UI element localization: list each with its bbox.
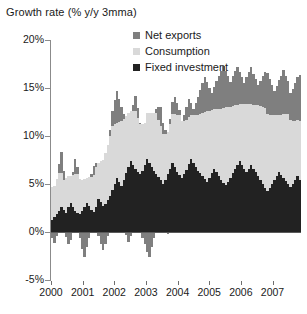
- y-tick-mark: [45, 88, 50, 89]
- x-tick-mark: [209, 281, 210, 285]
- plot-area: [51, 40, 301, 280]
- y-tick-label: 20%: [2, 33, 44, 45]
- y-tick-mark: [45, 40, 50, 41]
- legend-swatch-icon: [133, 32, 140, 39]
- chart-legend: Net exportsConsumptionFixed investment: [133, 28, 228, 76]
- y-tick-label: 5%: [2, 177, 44, 189]
- x-tick-mark: [83, 281, 84, 285]
- x-tick-label: 2003: [129, 286, 163, 298]
- legend-label: Fixed investment: [145, 62, 228, 73]
- legend-label: Consumption: [145, 46, 210, 57]
- y-tick-mark: [45, 136, 50, 137]
- x-tick-mark: [114, 281, 115, 285]
- chart-figure: Growth rate (% y/y 3mma) 20%15%10%5%0%-5…: [0, 0, 307, 314]
- x-tick-label: 2005: [192, 286, 226, 298]
- y-tick-mark: [45, 184, 50, 185]
- x-tick-label: 2000: [34, 286, 68, 298]
- y-tick-label: 0%: [2, 225, 44, 237]
- legend-item[interactable]: Fixed investment: [133, 60, 228, 75]
- y-tick-mark: [45, 232, 50, 233]
- legend-item[interactable]: Net exports: [133, 28, 228, 43]
- y-axis-labels: 20%15%10%5%0%-5%: [0, 0, 44, 314]
- legend-label: Net exports: [145, 30, 201, 41]
- stacked-area-plot: [51, 40, 301, 280]
- x-tick-label: 2004: [161, 286, 195, 298]
- x-tick-mark: [273, 281, 274, 285]
- y-tick-label: 15%: [2, 81, 44, 93]
- x-tick-label: 2007: [256, 286, 290, 298]
- legend-swatch-icon: [133, 48, 140, 55]
- x-tick-mark: [146, 281, 147, 285]
- y-tick-label: -5%: [2, 273, 44, 285]
- x-tick-mark: [178, 281, 179, 285]
- legend-item[interactable]: Consumption: [133, 44, 228, 59]
- y-tick-label: 10%: [2, 129, 44, 141]
- y-tick-mark: [45, 280, 50, 281]
- x-tick-mark: [51, 281, 52, 285]
- x-tick-label: 2006: [224, 286, 258, 298]
- x-tick-mark: [241, 281, 242, 285]
- x-tick-label: 2002: [97, 286, 131, 298]
- legend-swatch-icon: [133, 64, 140, 71]
- x-tick-label: 2001: [66, 286, 100, 298]
